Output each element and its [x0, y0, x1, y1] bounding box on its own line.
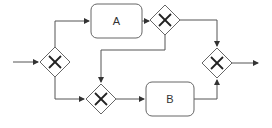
flow-g2-to-g4: [180, 20, 217, 46]
flow-task-b-to-g4: [194, 80, 217, 99]
gateway-4[interactable]: [202, 48, 232, 78]
flow-g2-to-g3: [101, 35, 165, 82]
task-a[interactable]: A: [91, 4, 142, 38]
process-diagram: A B: [0, 0, 272, 128]
task-b-label: B: [166, 93, 173, 105]
flow-g1-to-task-a: [55, 21, 89, 47]
gateway-1[interactable]: [40, 47, 70, 77]
flow-g1-to-g3: [55, 77, 84, 99]
task-b[interactable]: B: [146, 82, 194, 116]
gateway-3[interactable]: [86, 84, 116, 114]
gateway-2[interactable]: [150, 5, 180, 35]
task-a-label: A: [113, 15, 121, 27]
